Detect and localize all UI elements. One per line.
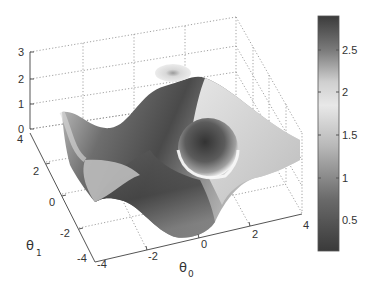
svg-text:0: 0	[49, 196, 55, 208]
svg-text:-4: -4	[77, 252, 87, 264]
svg-text:2.5: 2.5	[342, 44, 357, 56]
svg-text:4: 4	[303, 219, 309, 231]
svg-text:-2: -2	[60, 227, 70, 239]
svg-text:-4: -4	[97, 258, 107, 270]
svg-text:0.5: 0.5	[342, 214, 357, 226]
svg-text:2: 2	[342, 86, 348, 98]
svg-text:1: 1	[36, 248, 42, 258]
svg-text:1: 1	[342, 172, 348, 184]
z-tick-labels: 3 2 1 0	[18, 46, 24, 135]
svg-text:4: 4	[17, 133, 23, 145]
surface	[62, 64, 300, 238]
svg-text:2: 2	[18, 73, 24, 85]
svg-text:-2: -2	[148, 250, 158, 262]
y-axis-label: θ 1	[26, 238, 42, 258]
svg-text:1: 1	[18, 98, 24, 110]
svg-text:0: 0	[188, 269, 194, 279]
svg-text:2: 2	[33, 165, 39, 177]
svg-text:1.5: 1.5	[342, 129, 357, 141]
colorbar: 2.5 2 1.5 1 0.5	[318, 16, 357, 251]
svg-text:3: 3	[18, 46, 24, 58]
svg-text:θ: θ	[26, 238, 34, 253]
x-axis-label: θ 0	[179, 260, 194, 279]
surface-plot: 3 2 1 0 4 2 0 -2 -4 -4 -2 0 2 4 θ 0 θ 1	[0, 0, 370, 292]
svg-text:0: 0	[201, 238, 207, 250]
svg-text:θ: θ	[179, 260, 187, 275]
svg-text:2: 2	[252, 228, 258, 240]
